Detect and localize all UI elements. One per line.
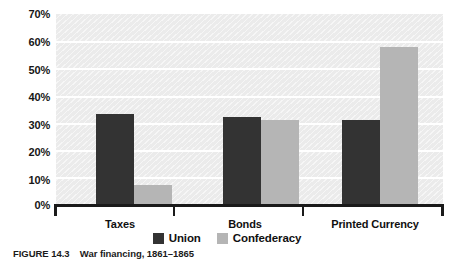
x-axis-left-cap: [54, 204, 57, 216]
x-axis-line: [54, 204, 444, 207]
plot-area: [56, 14, 443, 204]
legend-swatch-union-icon: [153, 233, 164, 244]
y-axis-labels: 70% 60% 50% 40% 30% 20% 10% 0%: [0, 0, 52, 257]
x-axis-tick-1: [173, 205, 175, 216]
chart-legend: Union Confederacy: [0, 232, 454, 244]
y-tick-label-0: 0%: [0, 199, 50, 211]
y-tick-label-40: 40%: [0, 91, 50, 103]
category-label-printed-currency: Printed Currency: [310, 218, 440, 230]
bar-printed-currency-union: [342, 120, 380, 204]
x-axis-right-cap: [441, 204, 444, 216]
legend-swatch-confederacy-icon: [217, 233, 228, 244]
legend-label-confederacy: Confederacy: [233, 232, 302, 244]
bar-taxes-confederacy: [134, 185, 172, 204]
figure-caption: FIGURE 14.3 War financing, 1861–1865: [13, 248, 443, 259]
y-tick-label-70: 70%: [0, 8, 50, 20]
bar-taxes-union: [96, 114, 134, 204]
legend-item-confederacy: Confederacy: [217, 232, 302, 244]
bar-printed-currency-confederacy: [380, 47, 418, 204]
gridline-60: [56, 41, 443, 43]
bar-bonds-confederacy: [261, 120, 299, 204]
x-axis-tick-2: [302, 205, 304, 216]
legend-item-union: Union: [153, 232, 201, 244]
y-tick-label-20: 20%: [0, 146, 50, 158]
figure-caption-text: War financing, 1861–1865: [80, 248, 194, 259]
bar-bonds-union: [223, 117, 261, 204]
legend-label-union: Union: [169, 232, 201, 244]
y-tick-label-60: 60%: [0, 36, 50, 48]
category-label-taxes: Taxes: [70, 218, 170, 230]
y-tick-label-10: 10%: [0, 174, 50, 186]
y-tick-label-30: 30%: [0, 119, 50, 131]
figure-caption-number: FIGURE 14.3: [13, 248, 69, 259]
y-tick-label-50: 50%: [0, 64, 50, 76]
category-label-bonds: Bonds: [195, 218, 295, 230]
